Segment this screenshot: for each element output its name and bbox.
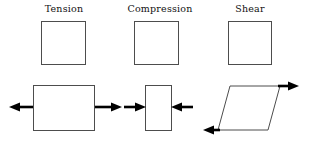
deformed-parallelogram-shear (218, 86, 280, 130)
compression-right-force-arrow (171, 103, 193, 112)
undeformed-square-shear (229, 22, 272, 65)
undeformed-square-tension (42, 22, 86, 65)
deformed-rectangle-compression (146, 86, 172, 131)
tension-left-force-arrow (9, 103, 33, 112)
deformed-rectangle-tension (34, 86, 95, 131)
shear-top-force-arrow (278, 82, 299, 91)
diagram-canvas (0, 0, 311, 141)
compression-left-force-arrow (124, 103, 146, 112)
stress-types-diagram: Tension Compression Shear (0, 0, 311, 141)
shear-bottom-force-arrow (203, 126, 220, 135)
undeformed-square-compression (135, 22, 179, 65)
tension-right-force-arrow (95, 103, 122, 112)
